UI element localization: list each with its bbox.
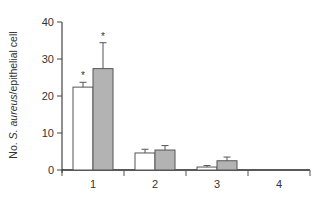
significance-mark: *: [101, 31, 105, 42]
bar-gray: [155, 150, 175, 170]
y-tick-label: 0: [48, 164, 54, 176]
bar-white: [73, 87, 93, 170]
y-tick-label: 40: [42, 16, 54, 28]
bar-white: [135, 153, 155, 170]
significance-mark: *: [81, 70, 85, 81]
x-tick-label: 1: [90, 178, 96, 190]
x-tick-label: 4: [276, 178, 282, 190]
bar-gray: [217, 161, 237, 170]
x-tick-label: 3: [214, 178, 220, 190]
y-tick-label: 10: [42, 127, 54, 139]
y-tick-label: 30: [42, 53, 54, 65]
x-tick-label: 2: [152, 178, 158, 190]
y-tick-label: 20: [42, 90, 54, 102]
bar-white: [197, 167, 217, 170]
chart-canvas: 0102030401**234: [0, 0, 323, 198]
bar-gray: [93, 69, 113, 170]
